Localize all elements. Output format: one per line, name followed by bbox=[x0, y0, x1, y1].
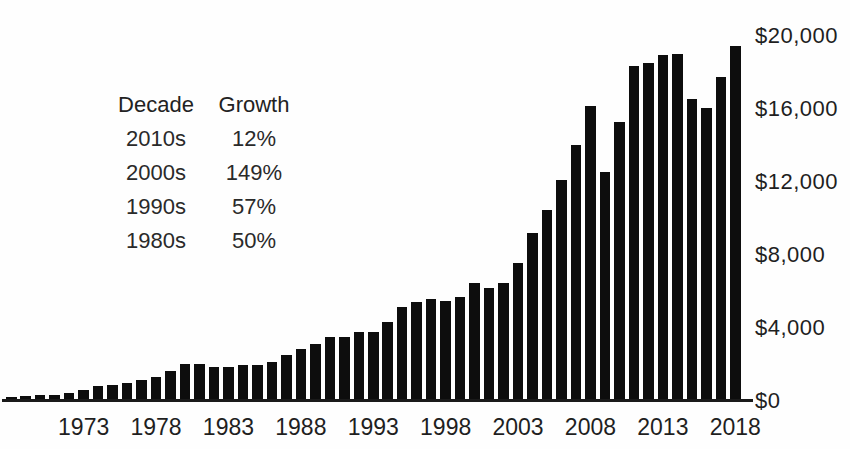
bar-2001 bbox=[484, 288, 495, 401]
y-tick-label: $12,000 bbox=[755, 169, 838, 195]
bar-1993 bbox=[368, 332, 379, 401]
bar-1987 bbox=[281, 355, 292, 401]
bar-1984 bbox=[238, 365, 249, 401]
bar-1978 bbox=[151, 377, 162, 401]
bar-1985 bbox=[252, 365, 263, 401]
bar-1992 bbox=[354, 332, 365, 401]
bar-2015 bbox=[687, 99, 698, 401]
bar-1999 bbox=[455, 297, 466, 401]
bar-1996 bbox=[411, 302, 422, 401]
growth-table-value: 57% bbox=[206, 190, 302, 224]
bar-1981 bbox=[194, 364, 205, 401]
bar-1983 bbox=[223, 367, 234, 401]
x-tick-label: 2003 bbox=[492, 414, 543, 441]
bar-1997 bbox=[426, 299, 437, 401]
growth-table-header-growth: Growth bbox=[206, 88, 302, 122]
bar-2006 bbox=[556, 180, 567, 401]
bar-2002 bbox=[498, 283, 509, 401]
x-tick-label: 1973 bbox=[58, 414, 109, 441]
y-tick-label: $8,000 bbox=[755, 242, 825, 268]
bar-1994 bbox=[382, 322, 393, 401]
x-tick-label: 2008 bbox=[565, 414, 616, 441]
bar-2016 bbox=[701, 108, 712, 401]
x-tick-label: 2018 bbox=[710, 414, 761, 441]
bar-1991 bbox=[339, 337, 350, 401]
bar-2007 bbox=[571, 145, 582, 401]
bar-1986 bbox=[267, 362, 278, 401]
bar-2005 bbox=[542, 210, 553, 401]
y-tick-label: $4,000 bbox=[755, 315, 825, 341]
decade-growth-table: DecadeGrowth2010s12%2000s149%1990s57%198… bbox=[106, 88, 302, 258]
growth-table-header-decade: Decade bbox=[106, 88, 206, 122]
bar-1988 bbox=[296, 349, 307, 401]
x-tick-label: 1993 bbox=[348, 414, 399, 441]
growth-table-value: 50% bbox=[206, 224, 302, 258]
bar-1979 bbox=[165, 371, 176, 401]
bar-1982 bbox=[209, 367, 220, 401]
x-tick-label: 1988 bbox=[275, 414, 326, 441]
growth-table-decade: 1990s bbox=[106, 190, 206, 224]
bar-2008 bbox=[585, 106, 596, 401]
bar-1980 bbox=[180, 364, 191, 401]
y-tick-label: $20,000 bbox=[755, 23, 838, 49]
bar-2004 bbox=[527, 233, 538, 401]
bar-2018 bbox=[730, 46, 741, 401]
bar-2013 bbox=[658, 55, 669, 401]
x-axis-line bbox=[2, 399, 753, 402]
bar-2012 bbox=[643, 63, 654, 401]
bar-1990 bbox=[325, 337, 336, 401]
bar-2009 bbox=[600, 172, 611, 401]
bar-1977 bbox=[136, 380, 147, 401]
x-tick-label: 1983 bbox=[203, 414, 254, 441]
bar-2010 bbox=[614, 122, 625, 401]
growth-table-decade: 2000s bbox=[106, 156, 206, 190]
bar-2000 bbox=[469, 283, 480, 401]
growth-table-value: 149% bbox=[206, 156, 302, 190]
y-tick-label: $0 bbox=[755, 388, 780, 414]
bar-chart: $0$4,000$8,000$12,000$16,000$20,000 1973… bbox=[0, 0, 850, 449]
bar-1998 bbox=[440, 301, 451, 401]
growth-table-value: 12% bbox=[206, 122, 302, 156]
x-tick-label: 1978 bbox=[130, 414, 181, 441]
growth-table-decade: 1980s bbox=[106, 224, 206, 258]
bar-1995 bbox=[397, 307, 408, 401]
x-tick-label: 1998 bbox=[420, 414, 471, 441]
y-tick-label: $16,000 bbox=[755, 96, 838, 122]
bar-2003 bbox=[513, 263, 524, 401]
x-tick-label: 2013 bbox=[637, 414, 688, 441]
bar-1989 bbox=[310, 344, 321, 401]
bar-2017 bbox=[716, 77, 727, 401]
bar-2014 bbox=[672, 54, 683, 401]
growth-table-decade: 2010s bbox=[106, 122, 206, 156]
bar-2011 bbox=[629, 66, 640, 401]
